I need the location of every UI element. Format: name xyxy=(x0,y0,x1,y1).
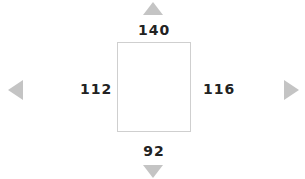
arrow-right-icon[interactable] xyxy=(284,80,299,100)
page-preview-box xyxy=(117,42,191,132)
right-margin-value: 116 xyxy=(203,81,235,97)
arrow-left-icon[interactable] xyxy=(8,80,23,100)
arrow-down-icon[interactable] xyxy=(143,165,163,178)
arrow-up-icon[interactable] xyxy=(143,2,163,15)
bottom-margin-value: 92 xyxy=(138,143,170,159)
top-margin-value: 140 xyxy=(138,22,170,38)
left-margin-value: 112 xyxy=(80,81,112,97)
